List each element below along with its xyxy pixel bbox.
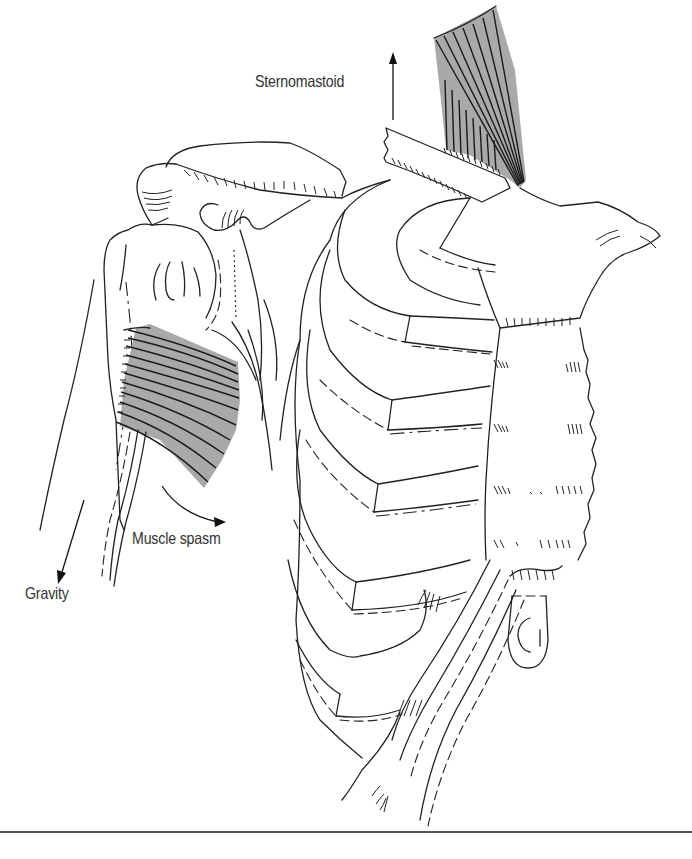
sternomastoid-label: Sternomastoid bbox=[255, 72, 344, 91]
sternomastoid-muscle bbox=[434, 6, 526, 188]
acromion bbox=[137, 164, 310, 231]
arm-shaft-lines bbox=[40, 280, 146, 586]
xiphoid bbox=[508, 596, 548, 668]
anatomy-figure: Sternomastoid Muscle spasm Gravity bbox=[0, 0, 692, 859]
sternum-body bbox=[485, 328, 596, 580]
muscle-spasm-arrow bbox=[162, 486, 226, 527]
spasm-muscle bbox=[116, 324, 240, 488]
gravity-label: Gravity bbox=[25, 584, 69, 603]
anatomy-drawing bbox=[0, 0, 692, 859]
muscle-spasm-label: Muscle spasm bbox=[132, 529, 221, 548]
gravity-arrow bbox=[57, 500, 84, 584]
horizontal-rule bbox=[0, 831, 692, 833]
manubrium bbox=[478, 188, 660, 328]
clavicle-left bbox=[166, 142, 390, 198]
sternomastoid-arrow bbox=[389, 52, 397, 120]
rib-cage bbox=[280, 180, 524, 826]
